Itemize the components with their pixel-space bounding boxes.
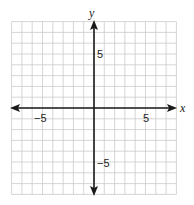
x-axis-label: x: [179, 101, 186, 115]
x-tick-label-neg5: −5: [34, 112, 47, 124]
y-axis-label: y: [88, 6, 95, 20]
y-tick-label-pos5: 5: [97, 48, 103, 60]
x-tick-label-pos5: 5: [143, 112, 149, 124]
y-tick-label-neg5: −5: [97, 157, 110, 169]
coordinate-plane: y x −5 5 5 −5: [0, 0, 194, 205]
